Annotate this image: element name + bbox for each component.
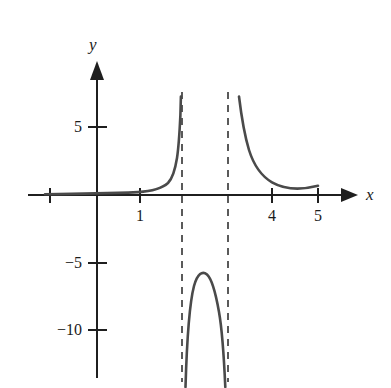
- x-axis-arrowhead: [341, 188, 358, 202]
- y-tick-label-neg5: −5: [40, 255, 82, 271]
- x-tick-label-1: 1: [136, 208, 144, 224]
- x-tick-label-5: 5: [314, 208, 322, 224]
- y-tick-label-5: 5: [48, 119, 82, 135]
- y-axis-arrowhead: [90, 61, 104, 80]
- graph-figure: y x 1 4 5 5 −5 −10: [0, 0, 391, 388]
- x-tick-label-4: 4: [268, 208, 276, 224]
- curve-branch-left: [45, 97, 181, 195]
- curve-branch-middle: [186, 273, 226, 387]
- x-axis-label: x: [366, 186, 374, 203]
- y-axis-label: y: [89, 36, 97, 53]
- curve-branch-right: [239, 97, 318, 189]
- y-tick-label-neg10: −10: [28, 322, 82, 338]
